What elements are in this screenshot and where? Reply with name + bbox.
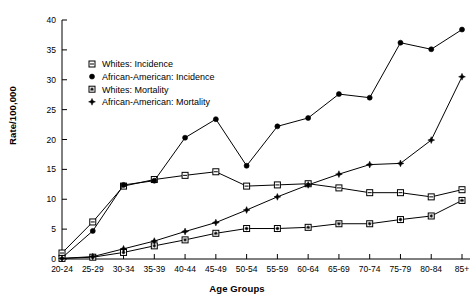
data-point — [152, 178, 157, 183]
x-axis-tick-label: 25-29 — [82, 264, 104, 274]
data-point — [398, 40, 403, 45]
legend-label: African-American: Incidence — [102, 72, 215, 82]
series-1 — [59, 169, 465, 256]
x-axis-tick-label: 55-59 — [267, 264, 289, 274]
x-axis-tick-label: 65-69 — [328, 264, 350, 274]
data-point — [121, 182, 126, 187]
data-point — [459, 73, 466, 80]
data-point — [429, 47, 434, 52]
line-chart-plot: 051015202530354020-2425-2930-3435-3940-4… — [0, 0, 474, 301]
legend: Whites: IncidenceAfrican-American: Incid… — [89, 59, 215, 107]
data-point — [336, 171, 343, 178]
y-axis-tick-label: 0 — [51, 254, 56, 264]
x-axis-tick-label: 60-64 — [297, 264, 319, 274]
x-axis-tick-label: 30-34 — [113, 264, 135, 274]
chart-container: Rate/100,000 Age Groups 0510152025303540… — [0, 0, 474, 301]
data-point — [243, 207, 250, 214]
data-point — [213, 117, 218, 122]
y-axis-tick-label: 5 — [51, 224, 56, 234]
data-point — [183, 135, 188, 140]
x-axis-tick-label: 70-74 — [359, 264, 381, 274]
x-axis-tick-label: 35-39 — [143, 264, 165, 274]
data-point — [306, 115, 311, 120]
y-axis-tick-label: 40 — [47, 15, 57, 25]
x-axis-tick-label: 85+ — [455, 264, 469, 274]
data-point — [367, 95, 372, 100]
data-point — [366, 161, 373, 168]
data-point — [275, 124, 280, 129]
data-point — [182, 228, 189, 235]
legend-marker — [90, 74, 95, 79]
y-axis-tick-label: 30 — [47, 75, 57, 85]
x-axis-tick-label: 20-24 — [51, 264, 73, 274]
x-axis-tick-label: 75-79 — [390, 264, 412, 274]
data-point — [90, 228, 95, 233]
x-axis-tick-label: 45-49 — [205, 264, 227, 274]
y-axis-tick-label: 20 — [47, 135, 57, 145]
y-axis-tick-label: 25 — [47, 105, 57, 115]
x-axis-tick-label: 80-84 — [420, 264, 442, 274]
legend-label: Whites: Mortality — [102, 85, 169, 95]
data-point — [212, 219, 219, 226]
legend-marker — [89, 98, 96, 105]
x-axis-tick-label: 50-54 — [236, 264, 258, 274]
series-3 — [59, 197, 465, 261]
x-axis-tick-label: 40-44 — [174, 264, 196, 274]
legend-label: Whites: Incidence — [102, 59, 173, 69]
data-point — [336, 92, 341, 97]
data-point — [274, 193, 281, 200]
data-point — [244, 163, 249, 168]
y-axis-tick-label: 10 — [47, 194, 57, 204]
y-axis-tick-label: 35 — [47, 45, 57, 55]
legend-label: African-American: Mortality — [102, 97, 211, 107]
y-axis-tick-label: 15 — [47, 164, 57, 174]
data-point — [460, 27, 465, 32]
